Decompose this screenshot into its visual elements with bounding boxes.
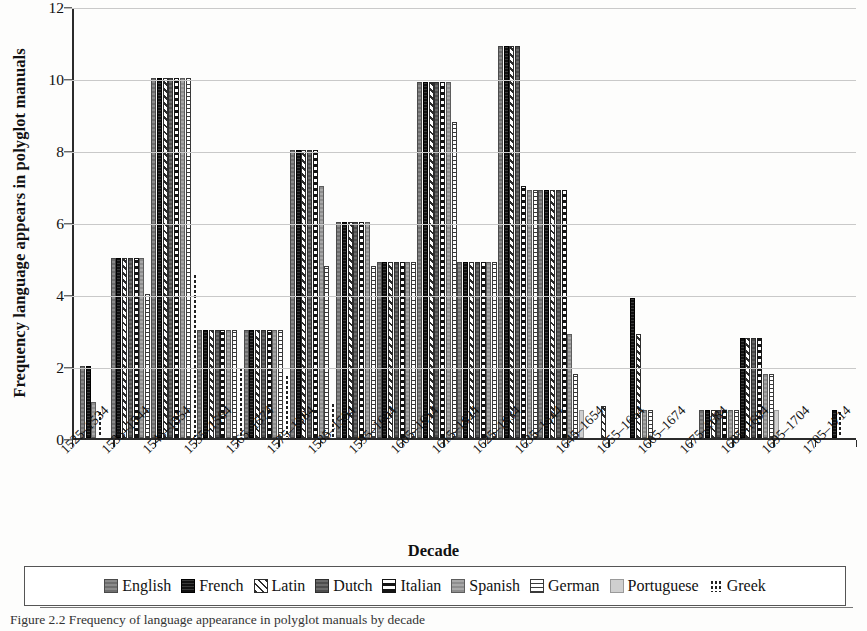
- bar-latin: [429, 82, 434, 438]
- bar-english: [336, 222, 341, 438]
- bar-spanish: [567, 334, 572, 438]
- bar-german: [533, 190, 538, 438]
- bar-latin: [163, 78, 168, 438]
- gridline: [72, 80, 856, 81]
- x-tick-label: 1635–1644: [526, 444, 567, 540]
- legend-label: Italian: [400, 577, 441, 595]
- x-tick-label: 1575–1584: [278, 444, 319, 540]
- legend-item-english[interactable]: English: [99, 577, 176, 595]
- y-axis-ticks: 024681012: [38, 8, 72, 440]
- bar-spanish: [405, 262, 410, 438]
- x-tick-label: 1655–1664: [608, 444, 649, 540]
- gridline: [72, 8, 856, 9]
- x-tick-mark: [856, 440, 857, 447]
- y-tick-label: 8: [56, 143, 64, 161]
- legend-item-french[interactable]: French: [176, 577, 248, 595]
- bar-german: [278, 330, 283, 438]
- y-tick-mark: [64, 295, 72, 296]
- bar-french: [423, 82, 428, 438]
- gridline: [72, 152, 856, 153]
- y-tick-mark: [64, 7, 72, 8]
- y-tick-label: 4: [56, 287, 64, 305]
- x-tick-label: 1685–1694: [732, 444, 773, 540]
- diagonal-hatch-swatch: [254, 579, 268, 593]
- bar-french: [544, 190, 549, 438]
- horizontal-band-swatch: [382, 579, 396, 593]
- solid-gray-swatch: [451, 579, 465, 593]
- bar-italian: [174, 78, 179, 438]
- plot-area: 024681012: [38, 8, 856, 440]
- legend-label: Greek: [727, 577, 766, 595]
- legend-item-german[interactable]: German: [525, 577, 605, 595]
- bar-german: [452, 122, 457, 439]
- bar-french: [504, 46, 509, 438]
- bar-italian: [440, 82, 445, 438]
- bar-english: [290, 150, 295, 438]
- x-tick-label: 1615–1624: [443, 444, 484, 540]
- bar-german: [492, 262, 497, 438]
- y-tick-label: 2: [56, 359, 64, 377]
- x-tick-label: 1555–1564: [196, 444, 237, 540]
- bar-dutch: [353, 222, 358, 438]
- legend-label: Spanish: [469, 577, 520, 595]
- y-tick-mark: [64, 223, 72, 224]
- x-tick-label: 1605–1614: [402, 444, 443, 540]
- x-tick-label: 1645–1654: [567, 444, 608, 540]
- gridline: [72, 224, 856, 225]
- gridline: [72, 296, 856, 297]
- y-axis-title: Frequency language appears in polyglot m…: [2, 0, 38, 445]
- bar-spanish: [272, 330, 277, 438]
- bar-english: [417, 82, 422, 438]
- x-tick-label: 1705–1714: [815, 444, 856, 540]
- bar-german: [232, 330, 237, 438]
- legend-label: English: [122, 577, 171, 595]
- legend-item-spanish[interactable]: Spanish: [446, 577, 525, 595]
- y-tick-mark: [64, 367, 72, 368]
- legend-item-dutch[interactable]: Dutch: [310, 577, 377, 595]
- legend-item-italian[interactable]: Italian: [377, 577, 446, 595]
- gridline: [72, 368, 856, 369]
- bar-italian: [400, 262, 405, 438]
- bar-german: [411, 262, 416, 438]
- x-tick-label: 1695–1704: [774, 444, 815, 540]
- bar-german: [186, 78, 191, 438]
- bar-latin: [509, 46, 514, 438]
- solid-light-gray-swatch: [610, 579, 624, 593]
- y-tick-mark: [64, 151, 72, 152]
- bar-italian: [359, 222, 364, 438]
- x-tick-label: 1675–1684: [691, 444, 732, 540]
- bar-dutch: [515, 46, 520, 438]
- bar-german: [371, 266, 376, 439]
- x-axis-title: Decade: [0, 541, 867, 561]
- bar-spanish: [446, 82, 451, 438]
- solid-black-swatch: [181, 579, 195, 593]
- bar-english: [197, 330, 202, 438]
- x-tick-label: 1535–1544: [113, 444, 154, 540]
- legend-label: French: [199, 577, 243, 595]
- solid-dark-gray-swatch: [315, 579, 329, 593]
- legend-item-latin[interactable]: Latin: [249, 577, 311, 595]
- solid-medium-gray-swatch: [104, 579, 118, 593]
- legend-item-greek[interactable]: Greek: [704, 577, 771, 595]
- x-tick-label: 1625–1634: [485, 444, 526, 540]
- bar-latin: [122, 258, 127, 438]
- bar-french: [157, 78, 162, 438]
- legend-label: Portuguese: [628, 577, 699, 595]
- y-tick-label: 12: [49, 0, 65, 17]
- x-tick-label: 1545–1554: [155, 444, 196, 540]
- legend-label: Latin: [272, 577, 306, 595]
- y-tick-label: 6: [56, 215, 64, 233]
- bar-english: [151, 78, 156, 438]
- bar-spanish: [486, 262, 491, 438]
- bar-french: [116, 258, 121, 438]
- bar-spanish: [527, 190, 532, 438]
- figure-caption: Figure 2.2 Frequency of language appeara…: [10, 612, 857, 631]
- legend-item-portuguese[interactable]: Portuguese: [605, 577, 704, 595]
- bar-english: [111, 258, 116, 438]
- x-tick-label: 1665–1674: [650, 444, 691, 540]
- y-tick-mark: [64, 79, 72, 80]
- bar-german: [769, 374, 774, 439]
- legend-label: Dutch: [333, 577, 372, 595]
- x-tick-label: 1565–1574: [237, 444, 278, 540]
- x-tick-label: 1525–1534: [72, 444, 113, 540]
